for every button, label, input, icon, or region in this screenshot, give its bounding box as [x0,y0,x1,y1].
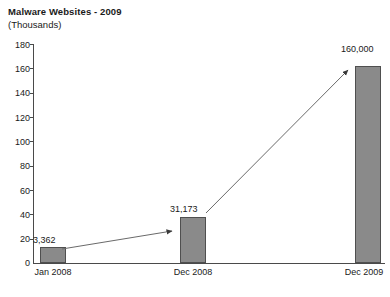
y-tick-label-100: 100 [4,138,30,147]
x-tick-label-dec-2008: Dec 2008 [174,268,213,277]
y-tick-label-180: 180 [4,41,30,50]
y-tick-mark-40 [30,214,33,215]
bar-jan-2008[interactable] [40,247,66,263]
y-tick-label-80: 80 [4,162,30,171]
x-tick-label-dec-2009: Dec 2009 [345,268,384,277]
y-tick-mark-120 [30,117,33,118]
y-tick-label-40: 40 [4,211,30,220]
bar-dec-2009[interactable] [355,66,381,263]
x-tick-label-jan-2008: Jan 2008 [34,268,71,277]
bar-dec-2008[interactable] [180,217,206,263]
y-tick-label-0: 0 [4,259,30,268]
x-axis-line [33,263,385,264]
y-tick-label-140: 140 [4,89,30,98]
growth-arrow-1 [62,231,172,249]
y-tick-mark-80 [30,166,33,167]
y-tick-mark-160 [30,68,33,69]
y-tick-mark-140 [30,93,33,94]
bar-value-label-dec-2008: 31,173 [170,205,198,214]
y-tick-label-120: 120 [4,114,30,123]
bar-value-label-dec-2009: 160,000 [341,45,374,54]
y-tick-mark-100 [30,141,33,142]
chart-container: Malware Websites - 2009 (Thousands) 180 … [0,0,390,297]
plot-area: 180 160 140 120 100 80 60 40 20 0 3,362 … [0,0,390,297]
y-tick-label-160: 160 [4,65,30,74]
y-tick-mark-60 [30,190,33,191]
y-tick-mark-180 [30,44,33,45]
bar-value-label-jan-2008: 3,362 [33,236,56,245]
y-axis-line [33,44,34,264]
y-tick-label-20: 20 [4,235,30,244]
y-tick-label-60: 60 [4,187,30,196]
growth-arrow-2 [206,70,348,213]
